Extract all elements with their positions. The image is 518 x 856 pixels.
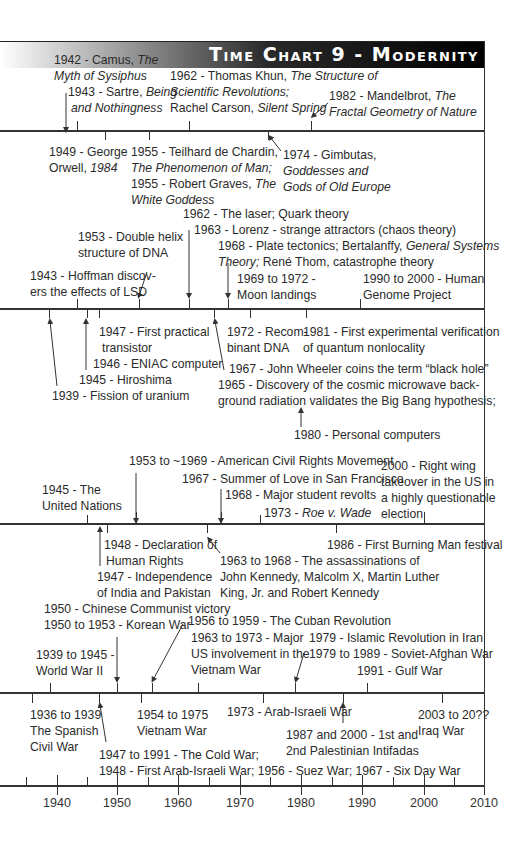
event-dna-cont: structure of DNA bbox=[78, 245, 168, 261]
event-assassinations-cont: John Kennedy, Malcolm X, Martin Luther bbox=[220, 569, 439, 585]
tick bbox=[336, 523, 337, 533]
event-laser: 1962 - The laser; Quark theory bbox=[183, 206, 349, 222]
event-vietnam-cont: Vietnam War bbox=[137, 723, 207, 739]
event-carson: Rachel Carson, Silent Spring bbox=[170, 100, 327, 116]
tick bbox=[367, 683, 368, 692]
tick bbox=[105, 130, 106, 140]
event-plate-tectonics-cont: Theory; René Thom, catastrophe theory bbox=[218, 254, 434, 270]
event-genome: 1990 to 2000 - Human bbox=[363, 271, 484, 287]
tick bbox=[99, 308, 100, 318]
event-ww2-cont: World War II bbox=[36, 663, 103, 679]
event-cold-war: 1947 to 1991 - The Cold War; bbox=[99, 747, 259, 763]
event-spain-cont: The Spanish bbox=[30, 723, 98, 739]
event-cuba: 1956 to 1959 - The Cuban Revolution bbox=[188, 613, 391, 629]
event-camus-cont: Myth of Sysiphus bbox=[54, 68, 147, 84]
axis-label-2010: 2010 bbox=[470, 796, 498, 810]
tick bbox=[424, 512, 425, 523]
tick bbox=[306, 308, 307, 318]
event-afghan: 1979 to 1989 - Soviet-Afghan War bbox=[309, 646, 493, 662]
event-fission: 1939 - Fission of uranium bbox=[52, 388, 190, 404]
event-moon: 1969 to 1972 - bbox=[237, 271, 316, 287]
time-chart: Time Chart 9 - Modernity bbox=[0, 0, 518, 856]
event-mandelbrot: 1982 - Mandelbrot, The bbox=[329, 88, 456, 104]
event-vietnam-us-cont: US involvement in the bbox=[191, 646, 310, 662]
event-right-wing-cont: takeover in the US in bbox=[381, 474, 494, 490]
event-student-revolts: 1968 - Major student revolts bbox=[225, 487, 376, 503]
timeline-society bbox=[0, 523, 485, 525]
tick bbox=[50, 683, 51, 692]
tick bbox=[250, 308, 251, 318]
tick bbox=[442, 692, 443, 703]
event-teilhard-cont: The Phenomenon of Man; bbox=[131, 160, 272, 176]
chart-title: Time Chart 9 - Modernity bbox=[209, 43, 479, 65]
tick bbox=[260, 515, 261, 523]
event-civil-rights: 1953 to ~1969 - American Civil Rights Mo… bbox=[129, 453, 394, 469]
minor-tick bbox=[26, 777, 27, 785]
event-quantum-cont: of quantum nonlocality bbox=[303, 340, 425, 356]
event-mandelbrot-cont: Fractal Geometry of Nature bbox=[329, 104, 477, 120]
tick bbox=[87, 308, 88, 318]
tick bbox=[139, 299, 140, 308]
tick bbox=[136, 512, 137, 523]
event-lorenz: 1963 - Lorenz - strange attractors (chao… bbox=[194, 222, 456, 238]
tick bbox=[295, 683, 296, 692]
event-sartre: 1943 - Sartre, Being bbox=[68, 84, 177, 100]
tick bbox=[87, 515, 88, 523]
event-gimbutas-cont: Goddesses and bbox=[283, 163, 368, 179]
event-assassinations: 1963 to 1968 - The assassinations of bbox=[220, 553, 420, 569]
event-india: 1947 - Independence bbox=[97, 569, 212, 585]
tick bbox=[263, 692, 264, 703]
event-pc: 1980 - Personal computers bbox=[294, 427, 440, 443]
event-wheeler: 1967 - John Wheeler coins the term “blac… bbox=[229, 361, 488, 377]
frame-border bbox=[484, 41, 485, 785]
axis-label-1960: 1960 bbox=[164, 796, 192, 810]
tick bbox=[198, 683, 199, 692]
event-sartre-cont: and Nothingness bbox=[71, 100, 162, 116]
event-spain-cont2: Civil War bbox=[30, 739, 78, 755]
event-india-cont: of India and Pakistan bbox=[97, 585, 211, 601]
event-khun-cont: Scientific Revolutions; bbox=[170, 84, 289, 100]
event-gimbutas: 1974 - Gimbutas, bbox=[283, 147, 376, 163]
event-iraq-cont: Iraq War bbox=[418, 723, 464, 739]
tick bbox=[360, 299, 361, 308]
axis-label-1980: 1980 bbox=[287, 796, 315, 810]
tick bbox=[152, 683, 153, 692]
event-genome-cont: Genome Project bbox=[363, 287, 451, 303]
tick bbox=[77, 121, 78, 130]
major-tick bbox=[57, 775, 58, 795]
event-gulf: 1991 - Gulf War bbox=[357, 663, 443, 679]
tick bbox=[117, 683, 118, 692]
tick bbox=[221, 512, 222, 523]
tick bbox=[77, 299, 78, 308]
timeline-culture bbox=[0, 130, 485, 132]
timeline-science bbox=[0, 308, 485, 310]
axis-label-1940: 1940 bbox=[43, 796, 71, 810]
event-cmb: 1965 - Discovery of the cosmic microwave… bbox=[218, 377, 479, 393]
event-summer-of-love: 1967 - Summer of Love in San Francisco bbox=[182, 471, 404, 487]
event-eniac: 1946 - ENIAC computer bbox=[93, 356, 222, 372]
event-iraq: 2003 to 20?? bbox=[418, 707, 489, 723]
event-graves: 1955 - Robert Graves, The bbox=[131, 176, 276, 192]
event-spain: 1936 to 1939 bbox=[30, 707, 101, 723]
event-recombinant: 1972 - Recom- bbox=[227, 324, 308, 340]
event-lsd-cont: ers the effects of LSD bbox=[30, 284, 147, 300]
tick bbox=[311, 121, 312, 130]
event-vietnam-us: 1963 to 1973 - Major bbox=[191, 630, 303, 646]
timeline-wars bbox=[0, 692, 485, 694]
event-cold-war-cont: 1948 - First Arab-Israeli War; 1956 - Su… bbox=[99, 763, 461, 779]
major-tick bbox=[484, 775, 485, 795]
event-human-rights: 1948 - Declaration of bbox=[104, 537, 217, 553]
event-cmb-cont: ground radiation validates the Big Bang … bbox=[218, 393, 496, 409]
event-recombinant-cont: binant DNA bbox=[227, 340, 289, 356]
event-human-rights-cont: Human Rights bbox=[106, 553, 183, 569]
minor-tick bbox=[87, 777, 88, 785]
event-quantum: 1981 - First experimental verification bbox=[303, 324, 499, 340]
event-khun: 1962 - Thomas Khun, The Structure of bbox=[170, 68, 378, 84]
axis-label-2000: 2000 bbox=[410, 796, 438, 810]
event-moon-cont: Moon landings bbox=[237, 287, 316, 303]
event-plate-tectonics: 1968 - Plate tectonics; Bertalanffy, Gen… bbox=[218, 238, 499, 254]
tick bbox=[228, 299, 229, 308]
event-lsd: 1943 - Hoffman discov- bbox=[30, 268, 156, 284]
tick bbox=[268, 130, 269, 140]
event-right-wing: 2000 - Right wing bbox=[381, 458, 476, 474]
